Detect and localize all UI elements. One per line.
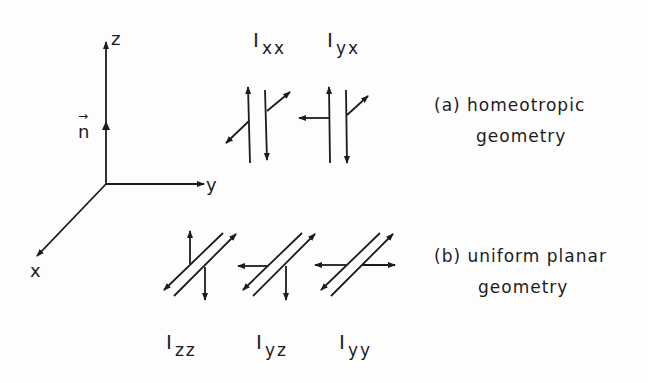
planar-iyy-arrows: [315, 233, 395, 296]
director-arrowhead-icon: [102, 121, 110, 130]
scattering-geometry-diagram: [0, 0, 648, 383]
caption-homeotropic-line2: geometry: [476, 128, 566, 145]
figure-canvas: z y x → n Ixx Iyx (a) homeotropic geomet…: [0, 0, 648, 383]
intensity-label-iyy: Iyy: [339, 332, 372, 352]
caption-homeotropic-line1: (a) homeotropic: [434, 97, 585, 114]
coordinate-axes: [37, 42, 204, 256]
homeotropic-ixx-arrows: [226, 87, 290, 163]
intensity-label-izz: Izz: [166, 332, 197, 352]
x-axis-arrow: [37, 184, 106, 256]
planar-iyz-arrows: [238, 233, 315, 300]
y-axis-label: y: [206, 176, 217, 194]
z-axis-label: z: [111, 30, 120, 48]
director-label: n: [78, 123, 89, 141]
intensity-label-iyx: Iyx: [327, 30, 360, 50]
intensity-label-ixx: Ixx: [253, 30, 286, 50]
planar-izz-arrows: [164, 231, 236, 300]
x-axis-label: x: [30, 262, 41, 280]
intensity-label-iyz: Iyz: [256, 332, 288, 352]
homeotropic-iyx-arrows: [299, 87, 368, 163]
caption-planar-line1: (b) uniform planar: [434, 248, 607, 265]
caption-planar-line2: geometry: [478, 279, 568, 296]
